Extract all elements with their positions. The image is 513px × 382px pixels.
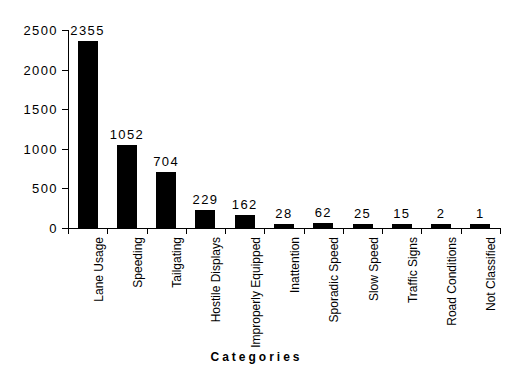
y-axis-tick (62, 30, 69, 31)
bar (156, 172, 176, 228)
y-axis-tick-label: 0 (49, 222, 58, 235)
bar (117, 145, 137, 228)
bar (470, 224, 490, 228)
x-axis-category-label: Sporadic Speed (328, 237, 340, 322)
bar-value-label: 25 (354, 207, 371, 220)
bar (195, 210, 215, 228)
x-axis-tick (382, 228, 383, 234)
bar (431, 224, 451, 228)
x-axis-tick (421, 228, 422, 234)
y-axis-tick-label: 2000 (23, 63, 58, 76)
x-axis-tick (68, 228, 69, 234)
bar-value-label: 2355 (70, 24, 105, 37)
bar (353, 224, 373, 228)
bar (392, 224, 412, 228)
x-axis-tick (107, 228, 108, 234)
x-axis-category-label: Hostile Displays (210, 237, 222, 322)
y-axis-tick (62, 109, 69, 110)
bar (78, 41, 98, 228)
bar-value-label: 1 (476, 207, 485, 220)
y-axis-tick-label: 1000 (23, 142, 58, 155)
y-axis-tick (62, 188, 69, 189)
bar-value-label: 162 (232, 198, 258, 211)
y-axis-tick-label: 500 (32, 182, 58, 195)
x-axis-category-label: Not Classified (485, 237, 497, 311)
x-axis-tick (186, 228, 187, 234)
bar-value-label: 28 (275, 207, 292, 220)
x-axis-category-label: Tailgating (171, 237, 183, 288)
x-axis-tick (461, 228, 462, 234)
plot-area: 05001000150020002500 2355105270422916228… (0, 0, 513, 382)
y-axis-tick (62, 149, 69, 150)
x-axis-tick (264, 228, 265, 234)
bar-value-label: 1052 (110, 128, 145, 141)
x-axis-tick (500, 228, 501, 234)
x-axis-tick (225, 228, 226, 234)
y-axis-tick-label: 2500 (23, 24, 58, 37)
bar (313, 223, 333, 228)
x-axis-category-label: Traffic Signs (407, 237, 419, 303)
chart-figure: 05001000150020002500 2355105270422916228… (0, 0, 513, 382)
x-axis-line (68, 228, 501, 229)
y-axis-tick (62, 70, 69, 71)
bar-value-label: 704 (153, 155, 179, 168)
x-axis-title: Categories (0, 350, 513, 364)
bar-value-label: 62 (315, 206, 332, 219)
bar (235, 215, 255, 228)
x-axis-tick (304, 228, 305, 234)
bar-value-label: 2 (437, 207, 446, 220)
x-axis-category-label: Road Conditions (446, 237, 458, 326)
x-axis-category-label: Slow Speed (368, 237, 380, 301)
y-axis-line (68, 30, 69, 229)
x-axis-tick (147, 228, 148, 234)
bar-value-label: 15 (393, 207, 410, 220)
x-axis-category-label: Inattention (289, 237, 301, 293)
bar (274, 224, 294, 228)
x-axis-tick (343, 228, 344, 234)
bar-value-label: 229 (193, 193, 219, 206)
x-axis-category-label: Speeding (132, 237, 144, 288)
x-axis-category-label: Improperly Equipped (250, 237, 262, 348)
y-axis-tick-label: 1500 (23, 103, 58, 116)
x-axis-category-label: Lane Usage (93, 237, 105, 302)
